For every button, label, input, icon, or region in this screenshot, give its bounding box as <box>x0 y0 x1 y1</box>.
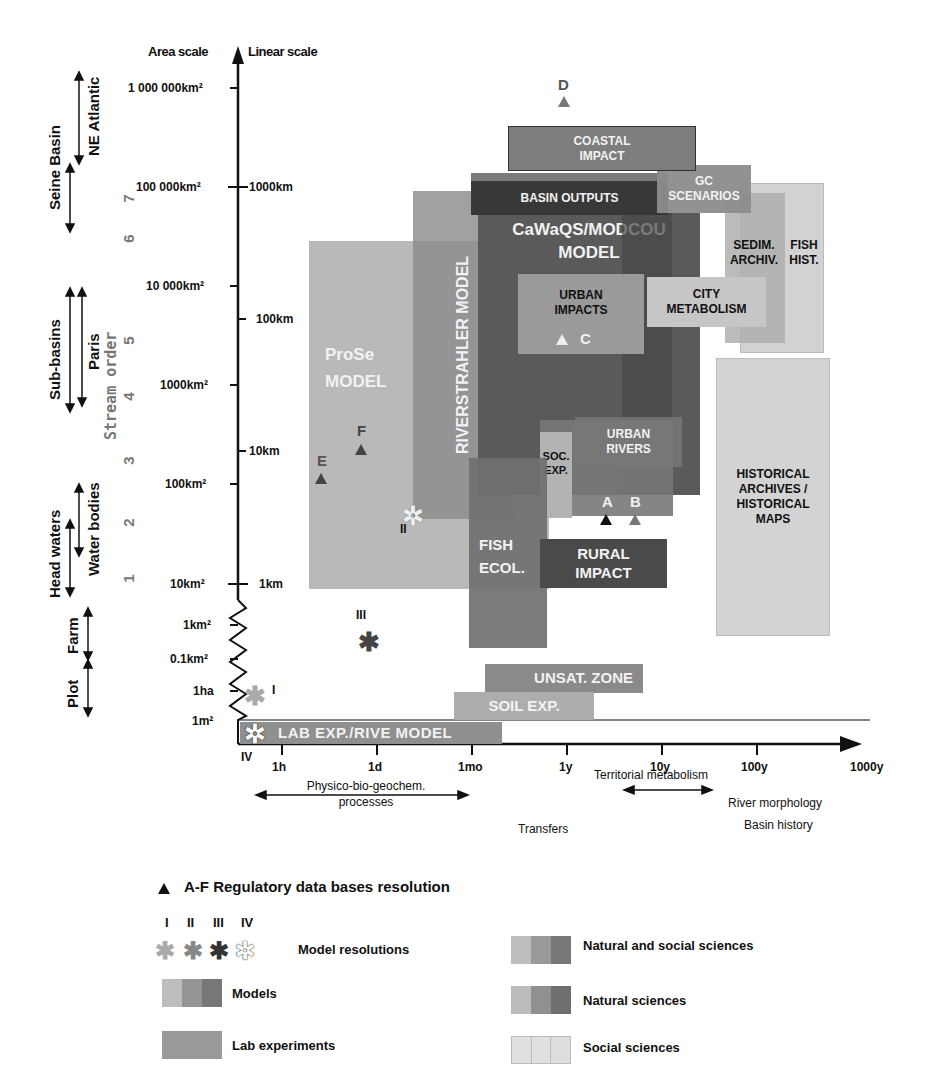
box-city-metabolism: CITY METABOLISM <box>647 277 766 327</box>
basin-outputs-label: BASIN OUTPUTS <box>520 191 618 206</box>
legend-swatch-lab <box>162 1031 222 1059</box>
area-tick-1: 1km² <box>183 618 211 632</box>
legend-regulatory: A-F Regulatory data bases resolution <box>184 878 450 895</box>
marker-label-a: A <box>602 493 613 510</box>
range-head-waters: Head waters <box>46 510 63 598</box>
area-tick-0.1: 0.1km² <box>170 652 208 666</box>
legend-roman-ii: II <box>187 915 194 930</box>
marker-a-icon <box>600 514 612 525</box>
x-tick-100y: 100y <box>741 760 768 774</box>
linear-tick-1000km: 1000km <box>249 180 293 194</box>
stream-order-5: 5 <box>120 336 137 344</box>
range-basin-history: Basin history <box>744 818 813 832</box>
x-tick-1y: 1y <box>559 760 572 774</box>
x-tick-1mo: 1mo <box>458 760 483 774</box>
stream-order-3: 3 <box>120 456 137 464</box>
legend-model-resolutions: Model resolutions <box>298 942 409 957</box>
legend-swatch-models <box>162 979 222 1007</box>
range-sub-basins: Sub-basins <box>46 319 63 400</box>
range-farm: Farm <box>64 617 81 654</box>
marker-c-icon <box>556 334 568 345</box>
stream-order-4: 4 <box>120 392 137 400</box>
marker-label-e: E <box>317 452 327 469</box>
box-basin-outputs: BASIN OUTPUTS <box>471 173 668 215</box>
box-coastal-impact: COASTAL IMPACT <box>508 126 696 171</box>
range-ne-atlantic: NE Atlantic <box>85 77 102 156</box>
x-tick-1h: 1h <box>272 760 286 774</box>
riverstrahler-label: RIVERSTRAHLER MODEL <box>453 256 473 454</box>
box-historical-archives: HISTORICAL ARCHIVES / HISTORICAL MAPS <box>716 358 830 636</box>
stream-order-6: 6 <box>120 234 137 242</box>
box-gc-scenarios: GC SCENARIOS <box>657 165 751 213</box>
resolution-label-iv: IV <box>241 750 252 764</box>
marker-b-icon <box>629 514 641 525</box>
marker-e-icon <box>315 473 327 484</box>
area-tick-1000: 1000km² <box>160 378 208 392</box>
stream-order-2: 2 <box>120 518 137 526</box>
fish-hist-label: FISH HIST. <box>780 238 828 268</box>
x-tick-1000y: 1000y <box>850 760 883 774</box>
box-unsat-zone: UNSAT. ZONE <box>485 664 643 693</box>
area-tick-1ha: 1ha <box>193 684 214 698</box>
area-tick-10: 10km² <box>170 577 205 591</box>
legend-natural: Natural sciences <box>583 993 686 1008</box>
sedim-archiv-label: SEDIM. ARCHIV. <box>724 238 784 268</box>
range-territorial-metabolism: Territorial metabolism <box>594 768 708 782</box>
marker-d-icon <box>558 96 570 107</box>
stream-order-title: Stream order <box>102 332 120 440</box>
legend-triangle-icon <box>158 883 170 894</box>
legend-swatch-social <box>511 1036 571 1064</box>
area-tick-10000: 10 000km² <box>146 279 204 293</box>
resolution-label-ii: II <box>400 522 407 536</box>
marker-label-c: C <box>580 330 591 347</box>
legend-star-iv-icon: ✲ <box>235 939 255 963</box>
resolution-iii-icon: ✱ <box>358 629 380 655</box>
legend-star-iii-icon: ✱ <box>209 939 229 963</box>
legend-roman-iv: IV <box>241 915 253 930</box>
range-physico-bio-geochem: Physico-bio-geochem. processes <box>286 778 446 810</box>
area-tick-100: 100km² <box>165 477 206 491</box>
x-tick-1d: 1d <box>368 760 382 774</box>
area-tick-1000000: 1 000 000km² <box>128 81 203 95</box>
legend-natural-social: Natural and social sciences <box>583 938 754 953</box>
resolution-label-iii: III <box>356 608 366 622</box>
box-fish-ecol: FISH ECOL. <box>469 458 547 648</box>
urban-impacts-label: URBAN IMPACTS <box>518 288 644 318</box>
marker-f-icon <box>355 444 367 455</box>
box-soil-exp: SOIL EXP. <box>454 692 594 720</box>
stream-order-1: 1 <box>120 574 137 582</box>
linear-tick-10km: 10km <box>249 444 280 458</box>
stream-order-7: 7 <box>120 194 137 202</box>
range-river-morphology: River morphology <box>728 796 822 810</box>
legend-star-ii-icon: ✱ <box>183 939 203 963</box>
box-urban-rivers: URBAN RIVERS <box>575 417 682 467</box>
legend-roman-iii: III <box>213 915 224 930</box>
box-lab-exp-rive-model: LAB EXP./RIVE MODEL <box>240 722 502 744</box>
area-tick-1m2: 1m² <box>192 714 213 728</box>
box-rural-impact: RURAL IMPACT <box>540 539 667 588</box>
resolution-i-icon: ✱ <box>244 683 266 709</box>
marker-label-f: F <box>357 422 366 439</box>
legend-social: Social sciences <box>583 1040 680 1055</box>
legend-star-i-icon: ✱ <box>155 939 175 963</box>
legend-models: Models <box>232 986 277 1001</box>
fish-ecol-label: FISH ECOL. <box>479 534 525 579</box>
marker-label-d: D <box>558 76 569 93</box>
range-water-bodies: Water bodies <box>85 482 102 576</box>
resolution-label-i: I <box>272 683 275 697</box>
range-transfers: Transfers <box>518 822 568 836</box>
legend-lab-experiments: Lab experiments <box>232 1038 335 1053</box>
range-paris: Paris <box>85 333 102 370</box>
linear-tick-1km: 1km <box>259 577 283 591</box>
marker-label-b: B <box>630 493 641 510</box>
range-plot: Plot <box>64 680 81 708</box>
resolution-iv-icon: ✲ <box>244 721 266 747</box>
range-seine-basin: Seine Basin <box>46 125 63 210</box>
legend-roman-i: I <box>165 915 169 930</box>
legend-swatch-natural <box>511 986 571 1014</box>
linear-tick-100km: 100km <box>256 312 293 326</box>
legend-swatch-natural-social <box>511 936 571 964</box>
area-tick-100000: 100 000km² <box>136 180 201 194</box>
prose-label: ProSe MODEL <box>325 341 386 395</box>
